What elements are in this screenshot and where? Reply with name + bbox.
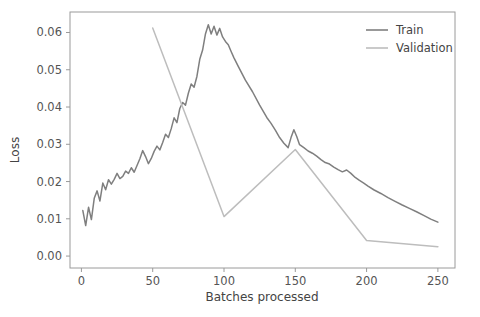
y-tick-label: 0.06: [36, 25, 62, 39]
x-axis-label: Batches processed: [205, 290, 318, 304]
x-tick-label: 50: [145, 274, 160, 288]
legend-label-train: Train: [395, 23, 424, 37]
x-tick-label: 150: [284, 274, 306, 288]
x-tick-label: 250: [427, 274, 449, 288]
x-tick-label: 200: [356, 274, 378, 288]
chart-figure: 050100150200250 0.000.010.020.030.040.05…: [0, 0, 480, 317]
y-tick-label: 0.03: [36, 137, 62, 151]
y-tick-label: 0.00: [36, 249, 62, 263]
plot-area: 050100150200250 0.000.010.020.030.040.05…: [36, 12, 455, 288]
y-tick-label: 0.05: [36, 63, 62, 77]
legend-label-validation: Validation: [396, 41, 453, 55]
loss-line-chart: 050100150200250 0.000.010.020.030.040.05…: [0, 0, 480, 317]
x-tick-label: 0: [78, 274, 85, 288]
y-tick-label: 0.01: [36, 212, 62, 226]
y-tick-label: 0.04: [36, 100, 62, 114]
y-tick-label: 0.02: [36, 175, 62, 189]
y-axis-label: Loss: [8, 137, 22, 163]
x-tick-label: 100: [213, 274, 235, 288]
